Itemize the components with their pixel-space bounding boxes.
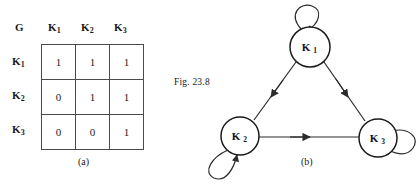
table-row: 0 0 1 bbox=[42, 115, 144, 150]
adjacency-matrix-table: 1 1 1 0 1 1 0 0 1 bbox=[41, 44, 144, 150]
matrix-column-header-2: K2 bbox=[81, 22, 94, 36]
digraph-svg: K 1 K 2 K 3 bbox=[170, 0, 417, 185]
node-k1-label: K bbox=[302, 41, 311, 53]
matrix-cell-r2c2: 1 bbox=[76, 80, 110, 115]
matrix-row-header-3: K3 bbox=[12, 124, 25, 138]
panel-b-digraph: K 1 K 2 K 3 (b) bbox=[170, 0, 417, 185]
edge-k1-to-k3 bbox=[324, 62, 365, 121]
row-header-1-sub: 1 bbox=[21, 60, 25, 69]
node-k3-subscript: 3 bbox=[381, 137, 385, 146]
panel-a-matrix: G K1 K2 K3 K1 K2 K3 1 1 1 0 1 1 bbox=[0, 0, 170, 185]
row-header-3-sub: 3 bbox=[21, 128, 25, 137]
node-k2: K 2 bbox=[221, 117, 259, 155]
table-row: 0 1 1 bbox=[42, 80, 144, 115]
matrix-cell-r3c3: 1 bbox=[110, 115, 144, 150]
panel-a-caption: (a) bbox=[78, 157, 89, 167]
matrix-cell-r3c2: 0 bbox=[76, 115, 110, 150]
panel-b-caption: (b) bbox=[301, 157, 313, 167]
matrix-row-header-2: K2 bbox=[12, 90, 25, 104]
row-header-1-base: K bbox=[12, 55, 21, 67]
node-k2-subscript: 2 bbox=[243, 135, 247, 144]
matrix-column-header-3: K3 bbox=[114, 22, 127, 36]
matrix-cell-r2c3: 1 bbox=[110, 80, 144, 115]
node-k3-label: K bbox=[370, 132, 379, 144]
matrix-cell-r2c1: 0 bbox=[42, 80, 76, 115]
matrix-cell-r1c3: 1 bbox=[110, 45, 144, 80]
row-header-2-sub: 2 bbox=[21, 94, 25, 103]
node-k1: K 1 bbox=[290, 27, 330, 67]
column-header-2-base: K bbox=[81, 21, 90, 33]
matrix-cell-r1c1: 1 bbox=[42, 45, 76, 80]
edge-k1-to-k2-arrowhead bbox=[271, 80, 283, 97]
edge-k1-to-k3-arrowhead bbox=[336, 79, 348, 97]
table-row: 1 1 1 bbox=[42, 45, 144, 80]
matrix-row-header-1: K1 bbox=[12, 56, 25, 70]
column-header-1-sub: 1 bbox=[57, 26, 61, 35]
matrix-cell-r1c2: 1 bbox=[76, 45, 110, 80]
column-header-3-sub: 3 bbox=[123, 26, 127, 35]
column-header-3-base: K bbox=[114, 21, 123, 33]
matrix-cell-r3c1: 0 bbox=[42, 115, 76, 150]
figure-page: G K1 K2 K3 K1 K2 K3 1 1 1 0 1 1 bbox=[0, 0, 417, 185]
matrix-column-header-1: K1 bbox=[48, 22, 61, 36]
node-k3: K 3 bbox=[359, 119, 397, 157]
matrix-corner-label: G bbox=[15, 22, 24, 33]
edge-k1-to-k2 bbox=[254, 62, 296, 120]
row-header-2-base: K bbox=[12, 89, 21, 101]
node-k1-subscript: 1 bbox=[313, 46, 317, 55]
column-header-1-base: K bbox=[48, 21, 57, 33]
row-header-3-base: K bbox=[12, 123, 21, 135]
node-k2-label: K bbox=[232, 130, 241, 142]
column-header-2-sub: 2 bbox=[90, 26, 94, 35]
